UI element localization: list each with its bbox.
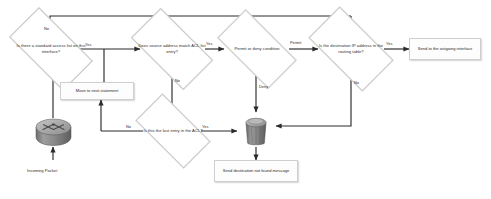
process-send-to-outgoing-interface[interactable]: Send to the outgoing interface bbox=[409, 38, 481, 60]
decision-routing-table-label: Is the destination IP address in the rou… bbox=[314, 43, 388, 54]
decision-permit-or-deny[interactable]: Permit or deny condition bbox=[222, 30, 292, 68]
process-move-to-next-statement-label: Move to next statement bbox=[74, 88, 121, 94]
process-move-to-next-statement[interactable]: Move to next statement bbox=[60, 82, 134, 100]
decision-permit-or-deny-label: Permit or deny condition bbox=[233, 46, 280, 52]
edge-label-permit: Permit bbox=[290, 40, 301, 45]
decision-routing-table[interactable]: Is the destination IP address in the rou… bbox=[314, 28, 388, 70]
router-icon bbox=[33, 116, 74, 148]
caption-incoming-packet: Incoming Packet bbox=[27, 168, 57, 173]
flowchart-canvas: Is there a standard access list on this … bbox=[0, 0, 491, 199]
edge-label-deny: Deny bbox=[259, 84, 268, 89]
process-send-destination-not-found[interactable]: Send destination not found message bbox=[214, 160, 298, 182]
edge-label-last-no: No bbox=[126, 124, 131, 129]
edge-label-source-no: No bbox=[175, 78, 180, 83]
decision-source-address-match[interactable]: Does source address match ACL list entry… bbox=[136, 29, 208, 69]
process-send-destination-not-found-label: Send destination not found message bbox=[221, 168, 291, 174]
decision-standard-access-list-label: Is there a standard access list on this … bbox=[14, 43, 88, 54]
edge-label-routing-no: No bbox=[354, 80, 359, 85]
decision-source-address-match-label: Does source address match ACL list entry… bbox=[136, 43, 208, 54]
edge-label-standard-no: No bbox=[44, 26, 49, 31]
decision-standard-access-list[interactable]: Is there a standard access list on this … bbox=[14, 29, 88, 69]
process-send-to-outgoing-interface-label: Send to the outgoing interface bbox=[416, 46, 475, 52]
bit-bucket-icon bbox=[240, 112, 272, 148]
decision-last-entry-acl[interactable]: Is this the last entry in the ACL? bbox=[140, 113, 206, 149]
decision-last-entry-acl-label: Is this the last entry in the ACL? bbox=[143, 128, 204, 134]
